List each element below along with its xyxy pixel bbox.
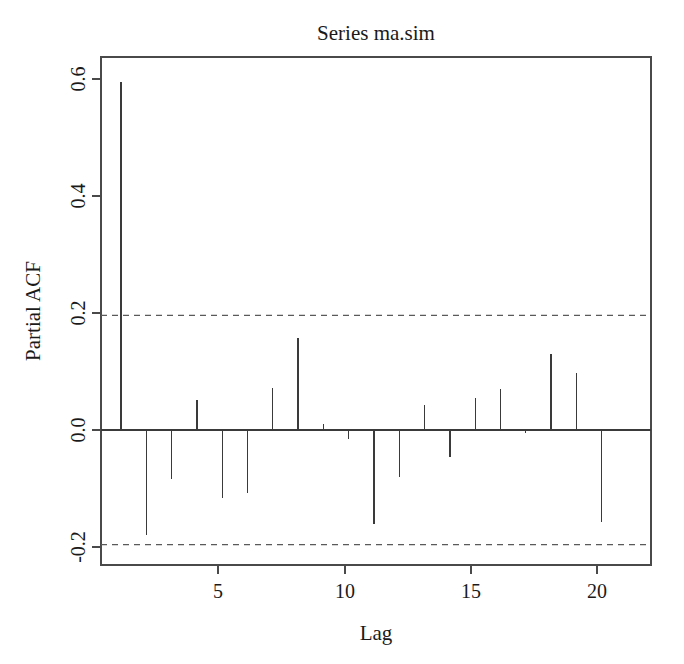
y-tick-label-0.2: 0.2	[67, 301, 89, 326]
plot-frame-box	[101, 57, 651, 565]
pacf-plot-figure: 0.6 0.4 0.2 0.0 -0.2 5 10 15 20 Series m…	[0, 0, 684, 664]
x-tick-label-15: 15	[461, 580, 481, 602]
y-axis-title: Partial ACF	[21, 261, 45, 361]
x-tick-label-5: 5	[213, 580, 223, 602]
x-axis-ticks	[218, 565, 597, 574]
x-tick-labels: 5 10 15 20	[213, 580, 607, 602]
x-tick-label-20: 20	[587, 580, 607, 602]
pacf-data-layer	[101, 82, 651, 545]
x-tick-label-10: 10	[335, 580, 355, 602]
y-tick-label--0.2: -0.2	[67, 531, 89, 563]
x-axis-title: Lag	[360, 621, 393, 645]
y-tick-label-0.6: 0.6	[67, 67, 89, 92]
y-axis-ticks	[92, 79, 101, 547]
page-title: Series ma.sim	[317, 21, 435, 45]
y-tick-label-0.4: 0.4	[67, 184, 89, 209]
y-tick-labels: 0.6 0.4 0.2 0.0 -0.2	[67, 67, 89, 563]
pacf-chart-canvas: 0.6 0.4 0.2 0.0 -0.2 5 10 15 20 Series m…	[0, 0, 684, 664]
y-tick-label-0.0: 0.0	[67, 418, 89, 443]
